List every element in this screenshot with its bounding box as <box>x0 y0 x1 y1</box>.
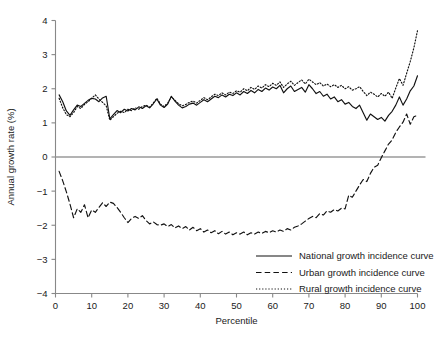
y-tick-label: 4 <box>42 15 47 26</box>
x-tick-label: 60 <box>267 300 278 311</box>
y-tick-label: 3 <box>42 49 47 60</box>
x-tick-label: 30 <box>159 300 170 311</box>
x-tick-label: 50 <box>231 300 242 311</box>
y-tick-label: −1 <box>37 186 48 197</box>
x-tick-label: 80 <box>340 300 351 311</box>
x-tick-label: 40 <box>195 300 206 311</box>
series-path-dotted <box>59 31 417 120</box>
x-tick-label: 70 <box>304 300 315 311</box>
series-lines <box>59 31 417 235</box>
chart-legend: National growth incidence curveUrban gro… <box>256 250 434 294</box>
y-tick-label: 0 <box>42 151 47 162</box>
growth-incidence-curve-figure: −4−3−2−1012340102030405060708090100 Perc… <box>0 0 443 346</box>
series-path-solid <box>59 76 417 121</box>
y-tick-label: 1 <box>42 117 47 128</box>
y-tick-label: −2 <box>37 220 48 231</box>
series-path-dashed <box>59 114 417 235</box>
legend-label: National growth incidence curve <box>299 250 434 261</box>
y-axis-title: Annual growth rate (%) <box>5 108 16 205</box>
y-tick-label: −3 <box>37 254 48 265</box>
x-tick-label: 90 <box>376 300 387 311</box>
x-tick-label: 100 <box>410 300 426 311</box>
y-tick-label: 2 <box>42 83 47 94</box>
y-tick-label: −4 <box>37 288 48 299</box>
x-tick-label: 0 <box>53 300 58 311</box>
legend-label: Rural growth incidence curve <box>299 283 422 294</box>
x-axis-title: Percentile <box>215 315 257 326</box>
x-tick-label: 20 <box>123 300 134 311</box>
chart-canvas: −4−3−2−1012340102030405060708090100 Perc… <box>0 0 443 346</box>
legend-label: Urban growth incidence curve <box>299 267 425 278</box>
x-tick-label: 10 <box>86 300 97 311</box>
